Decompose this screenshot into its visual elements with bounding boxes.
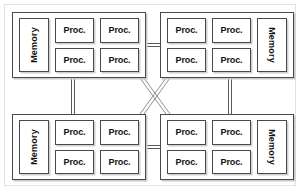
processor-label: Proc. [108,25,130,35]
processor-label: Proc. [108,127,130,137]
processor-grid: Proc. Proc. Proc. Proc. [167,18,251,72]
processor-label: Proc. [175,127,197,137]
processor-label: Proc. [63,25,85,35]
memory-label: Memory [29,129,39,165]
cluster-topology-diagram: Memory Proc. Proc. Proc. Proc. Memory Pr… [0,0,303,193]
processor-box: Proc. [212,18,251,43]
processor-label: Proc. [220,55,242,65]
node-top-left: Memory Proc. Proc. Proc. Proc. [12,12,146,78]
link-left-vertical [72,78,75,114]
processor-box: Proc. [167,120,206,145]
processor-label: Proc. [220,25,242,35]
processor-grid: Proc. Proc. Proc. Proc. [55,18,139,72]
processor-box: Proc. [212,48,251,73]
processor-box: Proc. [167,150,206,175]
processor-box: Proc. [100,48,139,73]
processor-grid: Proc. Proc. Proc. Proc. [55,120,139,174]
memory-label: Memory [267,129,277,165]
memory-label: Memory [267,27,277,63]
processor-label: Proc. [63,157,85,167]
processor-box: Proc. [55,48,94,73]
processor-label: Proc. [175,25,197,35]
processor-label: Proc. [175,55,197,65]
processor-label: Proc. [108,157,130,167]
processor-box: Proc. [167,48,206,73]
link-right-vertical [229,78,232,114]
processor-label: Proc. [220,157,242,167]
processor-label: Proc. [63,127,85,137]
memory-block: Memory [19,120,49,174]
memory-label: Memory [29,27,39,63]
processor-box: Proc. [212,150,251,175]
node-bottom-left: Memory Proc. Proc. Proc. Proc. [12,114,146,180]
processor-box: Proc. [100,120,139,145]
processor-box: Proc. [212,120,251,145]
link-bottom-horizontal [146,146,160,149]
link-top-horizontal [146,44,160,47]
memory-block: Memory [257,120,287,174]
processor-label: Proc. [175,157,197,167]
node-bottom-right: Memory Proc. Proc. Proc. Proc. [160,114,294,180]
processor-label: Proc. [63,55,85,65]
processor-grid: Proc. Proc. Proc. Proc. [167,120,251,174]
memory-block: Memory [257,18,287,72]
processor-label: Proc. [220,127,242,137]
processor-box: Proc. [55,120,94,145]
node-top-right: Memory Proc. Proc. Proc. Proc. [160,12,294,78]
processor-box: Proc. [100,150,139,175]
processor-label: Proc. [108,55,130,65]
processor-box: Proc. [55,18,94,43]
memory-block: Memory [19,18,49,72]
processor-box: Proc. [167,18,206,43]
processor-box: Proc. [100,18,139,43]
processor-box: Proc. [55,150,94,175]
